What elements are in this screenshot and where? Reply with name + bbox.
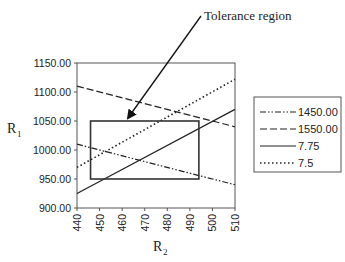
x-tick-label: 480 bbox=[161, 214, 173, 232]
x-tick-label: 500 bbox=[206, 214, 218, 232]
plot-area bbox=[77, 63, 235, 208]
svg-text:R: R bbox=[153, 239, 163, 254]
y-tick-label: 1150.00 bbox=[34, 57, 71, 69]
tolerance-region-rectangle bbox=[91, 121, 199, 179]
y-tick-label: 1050.00 bbox=[33, 115, 71, 127]
y-axis: 900.00950.001000.001050.001100.001150.00 bbox=[33, 57, 77, 214]
legend-label: 1550.00 bbox=[298, 123, 338, 135]
x-tick-label: 450 bbox=[94, 214, 106, 232]
x-tick-label: 460 bbox=[116, 214, 128, 232]
x-axis: 440450460470480490500510 bbox=[71, 208, 241, 232]
y-tick-label: 1100.00 bbox=[34, 86, 71, 98]
x-tick-label: 490 bbox=[184, 214, 196, 232]
y-axis-title: R 1 bbox=[7, 121, 22, 139]
legend-label: 7.5 bbox=[298, 157, 313, 169]
series-line-7.75 bbox=[77, 109, 235, 193]
y-tick-label: 900.00 bbox=[39, 202, 71, 214]
annotation-label: Tolerance region bbox=[204, 8, 292, 23]
svg-text:2: 2 bbox=[163, 247, 168, 257]
legend-label: 7.75 bbox=[298, 140, 319, 152]
y-tick-label: 950.00 bbox=[39, 173, 71, 185]
x-tick-label: 440 bbox=[71, 214, 83, 232]
annotation-arrow bbox=[128, 16, 201, 118]
legend-label: 1450.00 bbox=[298, 106, 338, 118]
svg-text:R: R bbox=[7, 121, 17, 136]
x-axis-title: R 2 bbox=[153, 239, 168, 257]
x-tick-label: 470 bbox=[139, 214, 151, 232]
y-tick-label: 1000.00 bbox=[33, 144, 71, 156]
chart: 900.00950.001000.001050.001100.001150.00… bbox=[0, 0, 345, 262]
svg-text:1: 1 bbox=[17, 129, 22, 139]
series-lines bbox=[77, 79, 235, 193]
x-tick-label: 510 bbox=[229, 214, 241, 232]
